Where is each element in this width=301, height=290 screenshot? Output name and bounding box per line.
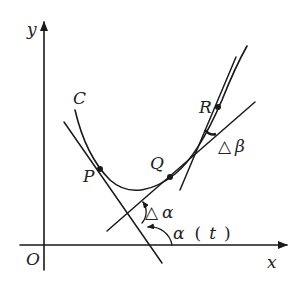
tangent-angle-diagram: y x O C P Q R α ( t ) △ α △ β	[0, 0, 301, 290]
point-r-label: R	[198, 97, 212, 117]
curve-label: C	[73, 88, 86, 108]
x-axis-label: x	[267, 252, 277, 272]
diagram-svg: y x O C P Q R α ( t ) △ α △ β	[0, 0, 301, 290]
alpha-t-arc-icon	[148, 227, 172, 245]
point-q-label: Q	[150, 153, 164, 173]
point-p	[97, 166, 103, 172]
origin-label: O	[26, 249, 40, 269]
point-q	[167, 174, 173, 180]
point-r	[215, 104, 221, 110]
tangent-line-r	[180, 57, 236, 190]
y-axis-label: y	[26, 19, 37, 39]
alpha-t-label: α ( t )	[173, 223, 231, 243]
tangent-line-p	[64, 122, 162, 263]
delta-beta-label: △ β	[218, 136, 245, 156]
tangent-line-q	[107, 102, 255, 231]
point-p-label: P	[82, 166, 95, 186]
delta-alpha-label: △ α	[145, 202, 174, 222]
delta-beta-arc-icon	[205, 130, 216, 135]
